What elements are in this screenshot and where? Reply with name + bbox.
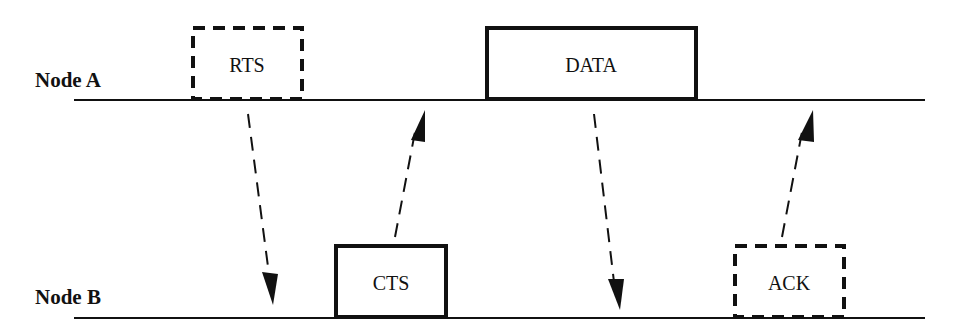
- cts-arrow: [395, 110, 425, 237]
- data-frame: DATA: [487, 28, 696, 99]
- arrowhead-up-icon: [411, 110, 425, 142]
- ack-arrow: [782, 110, 814, 237]
- rts-arrow: [248, 114, 278, 305]
- rts-label: RTS: [229, 54, 264, 76]
- rts-cts-timing-diagram: Node A Node B RTS DATA CTS ACK: [0, 0, 955, 332]
- arrowhead-down-icon: [608, 279, 624, 310]
- arrowhead-up-icon: [798, 110, 814, 142]
- cts-frame: CTS: [336, 246, 446, 317]
- rts-frame: RTS: [193, 28, 302, 99]
- arrowhead-down-icon: [262, 272, 278, 305]
- data-arrow: [594, 114, 624, 310]
- data-label: DATA: [565, 54, 617, 76]
- cts-label: CTS: [373, 272, 410, 294]
- ack-frame: ACK: [735, 246, 844, 317]
- ack-label: ACK: [768, 272, 811, 294]
- node-a-label: Node A: [35, 68, 102, 92]
- node-b-label: Node B: [35, 285, 101, 309]
